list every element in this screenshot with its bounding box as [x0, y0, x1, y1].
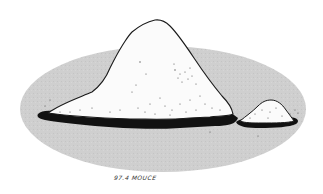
artist-signature: 97.4 MOUCE	[114, 174, 158, 181]
salt-piles-drawing	[0, 0, 323, 194]
illustration: 97.4 MOUCE	[0, 0, 323, 194]
